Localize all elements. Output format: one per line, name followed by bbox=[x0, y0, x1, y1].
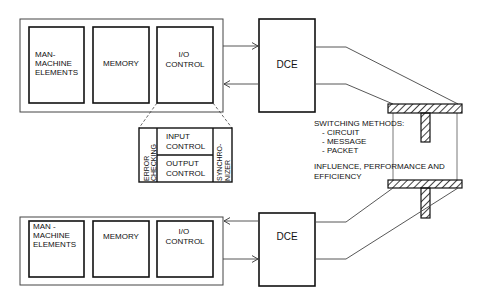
bottom-dce-label: DCE bbox=[276, 231, 297, 242]
top-line-1 bbox=[315, 47, 458, 104]
bottom-line-1 bbox=[315, 188, 393, 222]
diagram-canvas: MAN- MACHINE ELEMENTS MEMORY I/O CONTROL… bbox=[0, 0, 488, 306]
top-line-2 bbox=[315, 84, 393, 104]
bottom-dce-box bbox=[259, 213, 315, 286]
top-io-label: I/O CONTROL bbox=[165, 50, 205, 69]
synchronizer-label: SYNCHRO- bbox=[216, 143, 223, 181]
bottom-man-machine-label: MAN - MACHINE ELEMENTS bbox=[33, 222, 76, 249]
bottom-memory-box bbox=[93, 221, 149, 277]
switching-items: - CIRCUIT - MESSAGE - PACKET bbox=[322, 128, 369, 155]
io-detail: ERROR CHECKING INPUT CONTROL OUTPUT CONT… bbox=[139, 103, 232, 182]
bottom-switch-bar bbox=[388, 180, 462, 188]
l: MAN- bbox=[35, 50, 56, 59]
influence-text: INFLUENCE, PERFORMANCE AND EFFICIENCY bbox=[314, 162, 447, 181]
input-control-label: INPUT CONTROL bbox=[166, 132, 206, 151]
error-checking-label: ERROR bbox=[143, 156, 150, 181]
bottom-line-2 bbox=[315, 188, 458, 259]
top-dce-label: DCE bbox=[276, 59, 297, 70]
top-system: MAN- MACHINE ELEMENTS MEMORY I/O CONTROL… bbox=[20, 19, 458, 112]
svg-text:CHECKING: CHECKING bbox=[150, 144, 157, 181]
bottom-io-label: I/O CONTROL bbox=[165, 227, 205, 246]
top-man-machine-label: MAN- MACHINE ELEMENTS bbox=[35, 50, 78, 77]
top-switch-bar bbox=[388, 104, 462, 113]
switching-title: SWITCHING METHODS: bbox=[314, 119, 404, 128]
svg-text:NIZER: NIZER bbox=[224, 160, 231, 181]
switching-network: SWITCHING METHODS: - CIRCUIT - MESSAGE -… bbox=[314, 104, 462, 218]
top-memory-label: MEMORY bbox=[103, 59, 140, 68]
bottom-memory-label: MEMORY bbox=[103, 232, 140, 241]
output-control-label: OUTPUT CONTROL bbox=[166, 159, 206, 178]
bottom-switch-stem bbox=[421, 188, 430, 218]
top-switch-stem bbox=[421, 113, 430, 142]
bottom-system: MAN - MACHINE ELEMENTS MEMORY I/O CONTRO… bbox=[20, 188, 458, 286]
